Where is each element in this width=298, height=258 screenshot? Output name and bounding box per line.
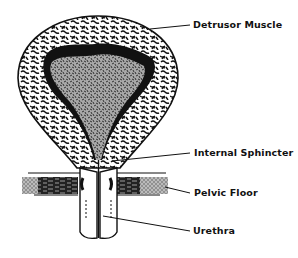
label-pelvic-floor: Pelvic Floor bbox=[194, 187, 258, 198]
bladder-diagram bbox=[0, 0, 298, 258]
leader-detrusor bbox=[150, 25, 190, 29]
label-internal-sphincter: Internal Sphincter bbox=[194, 147, 293, 158]
label-urethra: Urethra bbox=[193, 225, 235, 236]
leader-pelvic bbox=[165, 187, 190, 193]
urethra-structure bbox=[80, 160, 117, 238]
label-detrusor-muscle: Detrusor Muscle bbox=[193, 19, 282, 30]
